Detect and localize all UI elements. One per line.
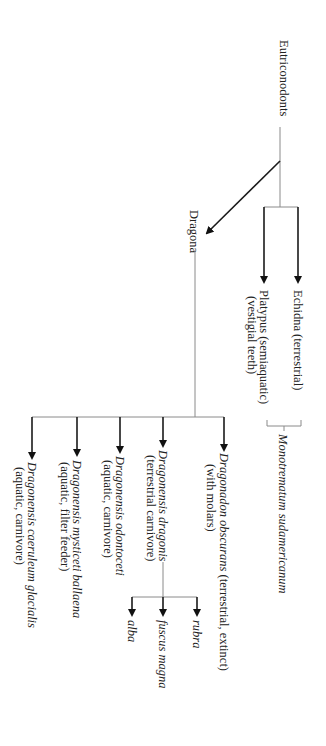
alba-label: alba (125, 620, 139, 642)
monotreme-brace (267, 420, 301, 431)
caeruleum-note: (aquatic, carnivore) (13, 467, 27, 565)
platypus-note: (vestigial teeth) (245, 296, 259, 374)
dragona-arrow (207, 161, 280, 233)
obscurans-label: Dragonadon obscurans (terrestrial, extin… (217, 452, 231, 671)
obscurans-name: Dragonadon obscurans (217, 452, 231, 572)
echidna-label: Echidna (terrestrial) (291, 290, 305, 390)
dragonis-note: (terrestrial carnivore) (144, 455, 158, 562)
odontoceti-note: (aquatic, carnivore) (101, 460, 115, 558)
mysticeti-note: (aquatic, filter feeder) (58, 462, 72, 571)
root-label: Eutriconodonts (277, 40, 291, 117)
obscurans-note2: (with molars) (204, 464, 218, 532)
dragona-label: Dragona (187, 210, 201, 253)
rubra-label: rubra (190, 620, 204, 648)
obscurans-note: (terrestrial, extinct) (217, 571, 231, 671)
fuscus-magna-label: fuscus magna (156, 620, 170, 688)
phylogeny-diagram: Eutriconodonts Echidna (terrestrial) Pla… (0, 0, 326, 746)
monotreme-clade-label: Monotrematum sudamericanum (276, 433, 290, 594)
